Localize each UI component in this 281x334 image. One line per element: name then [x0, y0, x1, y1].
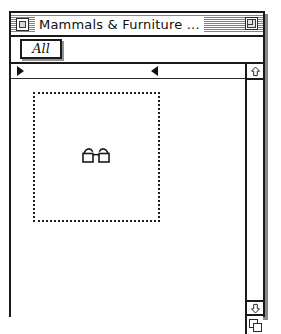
zoom-box-inner	[247, 19, 256, 28]
scroll-up-button[interactable]	[247, 64, 263, 80]
tab-strip: All	[11, 37, 263, 64]
window-body	[11, 79, 263, 334]
left-margin-marker[interactable]	[17, 66, 24, 76]
close-box-button[interactable]	[16, 18, 29, 31]
scrollbar-track[interactable]	[247, 80, 263, 298]
glasses-icon[interactable]	[81, 143, 111, 167]
right-margin-marker[interactable]	[151, 66, 158, 76]
window-title: Mammals & Furniture ...	[35, 17, 204, 32]
scroll-down-icon	[250, 303, 261, 314]
ruler-bar[interactable]	[11, 64, 245, 79]
close-box-inner	[19, 21, 26, 28]
grow-box[interactable]	[247, 316, 263, 334]
scroll-down-button[interactable]	[247, 300, 263, 316]
vertical-scrollbar[interactable]	[245, 64, 263, 334]
tab-all[interactable]: All	[20, 39, 62, 59]
window-titlebar[interactable]: Mammals & Furniture ...	[11, 13, 263, 37]
zoom-box-button[interactable]	[245, 17, 258, 30]
grow-box-icon	[249, 319, 262, 332]
document-canvas[interactable]	[11, 79, 245, 334]
application-window[interactable]: Mammals & Furniture ... All	[9, 11, 265, 317]
scroll-up-icon	[250, 66, 261, 77]
tab-all-label: All	[32, 42, 50, 56]
selection-rectangle[interactable]	[33, 92, 160, 222]
